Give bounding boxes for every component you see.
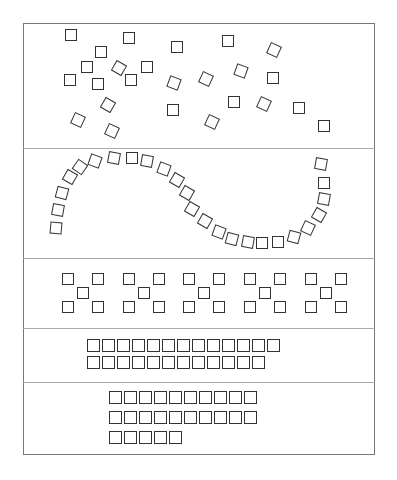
curve-square [49,221,62,234]
curve-square [317,192,331,206]
two-rows-square [252,339,265,352]
two-rows-row [87,356,265,369]
three-rows-square [139,431,152,444]
dice-square [198,287,210,299]
dice-square [335,301,347,313]
two-rows-square [162,356,175,369]
dice-square [153,301,165,313]
three-rows-square [199,411,212,424]
two-rows-square [117,356,130,369]
three-rows-square [229,391,242,404]
dice-square [123,301,135,313]
three-rows-square [214,411,227,424]
two-rows-square [102,356,115,369]
dice-square [305,273,317,285]
two-rows-square [87,356,100,369]
dice-square [320,287,332,299]
three-rows-square [169,411,182,424]
dice-square [259,287,271,299]
three-rows-square [199,391,212,404]
three-rows-square [229,411,242,424]
section-divider-2 [23,258,375,259]
scattered-square [167,104,179,116]
three-rows-square [109,411,122,424]
scattered-square [293,102,305,114]
scattered-square [92,78,104,90]
two-rows-square [147,339,160,352]
two-rows-square [207,339,220,352]
dice-square [62,301,74,313]
two-rows-square [222,356,235,369]
scattered-square [222,35,234,47]
dice-square [183,273,195,285]
scattered-square [81,61,93,73]
curve-square [241,235,255,249]
dice-square [62,273,74,285]
scattered-square [125,74,137,86]
two-rows-square [132,356,145,369]
scattered-square [123,32,135,44]
two-rows-square [237,356,250,369]
dice-square [123,273,135,285]
two-rows-square [192,339,205,352]
scattered-square [228,96,240,108]
three-rows-square [109,391,122,404]
two-rows-square [87,339,100,352]
dice-square [153,273,165,285]
dice-square [274,273,286,285]
three-rows-square [244,391,257,404]
two-rows-square [132,339,145,352]
three-rows-square [154,431,167,444]
curve-square [140,154,154,168]
curve-square [318,177,330,189]
three-rows-row [109,431,182,444]
two-rows-square [252,356,265,369]
three-rows-square [109,431,122,444]
dice-square [138,287,150,299]
two-rows-square [177,339,190,352]
scattered-square [267,72,279,84]
curve-square [51,203,65,217]
curve-square [107,151,121,165]
two-rows-square [162,339,175,352]
dice-square [213,301,225,313]
three-rows-row [109,391,257,404]
dice-square [77,287,89,299]
two-rows-square [117,339,130,352]
three-rows-square [169,391,182,404]
scattered-square [318,120,330,132]
dice-square [274,301,286,313]
two-rows-square [177,356,190,369]
dice-square [183,301,195,313]
scattered-square [141,61,153,73]
two-rows-square [207,356,220,369]
three-rows-row [109,411,257,424]
scattered-square [65,29,77,41]
three-rows-square [124,431,137,444]
three-rows-square [124,411,137,424]
curve-square [256,237,268,249]
dice-square [92,273,104,285]
three-rows-square [154,391,167,404]
dice-square [213,273,225,285]
three-rows-square [169,431,182,444]
dice-square [244,301,256,313]
three-rows-square [184,391,197,404]
three-rows-square [244,411,257,424]
three-rows-square [184,411,197,424]
scattered-square [64,74,76,86]
three-rows-square [139,391,152,404]
section-divider-4 [23,382,375,383]
dice-square [92,301,104,313]
scattered-square [95,46,107,58]
section-divider-3 [23,328,375,329]
two-rows-square [192,356,205,369]
dice-square [335,273,347,285]
section-divider-1 [23,148,375,149]
dice-square [305,301,317,313]
three-rows-square [139,411,152,424]
three-rows-square [214,391,227,404]
two-rows-row [87,339,280,352]
two-rows-square [222,339,235,352]
scattered-square [171,41,183,53]
